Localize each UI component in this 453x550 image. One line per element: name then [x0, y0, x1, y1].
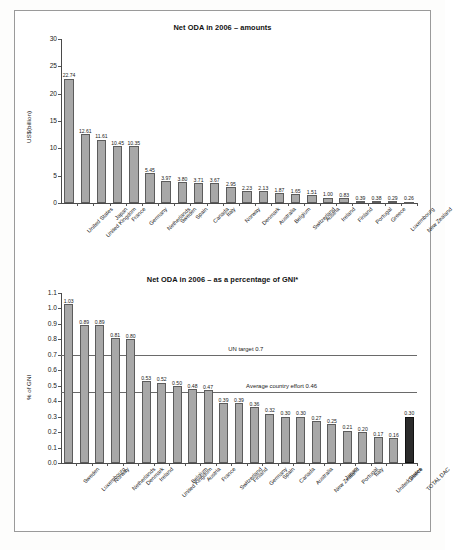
bar-value-label: 0.47 — [191, 384, 225, 390]
chart-title-gni: Net ODA in 2006 – as a percentage of GNI… — [15, 275, 430, 284]
y-axis-tick-label: 5 — [35, 172, 57, 179]
bar[interactable] — [291, 194, 300, 203]
y-axis-tick-mark — [58, 148, 61, 149]
x-axis-category-label: TOTAL DAC — [425, 466, 451, 492]
x-axis-tick-mark — [304, 203, 305, 206]
bar[interactable] — [142, 381, 151, 463]
x-axis-tick-mark — [247, 463, 248, 466]
y-axis-tick-label: 0.9 — [35, 320, 57, 327]
y-axis-tick-label: 0.8 — [35, 335, 57, 342]
x-axis-category-label: France — [220, 466, 237, 483]
bar[interactable] — [275, 193, 284, 203]
x-axis-tick-mark — [239, 203, 240, 206]
bar[interactable] — [157, 383, 166, 463]
x-axis-tick-mark — [76, 463, 77, 466]
bar[interactable] — [374, 437, 383, 463]
bar[interactable] — [405, 417, 414, 463]
bar[interactable] — [126, 339, 135, 463]
bar[interactable] — [95, 325, 104, 463]
x-axis-category-label: Ireland — [340, 206, 356, 222]
x-axis-tick-mark — [417, 203, 418, 206]
x-axis-tick-mark — [336, 203, 337, 206]
bar[interactable] — [323, 198, 332, 203]
bar[interactable] — [281, 417, 290, 463]
bar[interactable] — [388, 201, 397, 203]
bar[interactable] — [173, 386, 182, 463]
x-axis-tick-mark — [271, 203, 272, 206]
x-axis-tick-mark — [385, 203, 386, 206]
x-axis-tick-mark — [142, 203, 143, 206]
bar[interactable] — [265, 414, 274, 463]
bar-value-label: 0.26 — [391, 195, 427, 201]
y-axis-tick-label: 0.4 — [35, 397, 57, 404]
y-axis-tick-mark — [58, 339, 61, 340]
reference-line-label: Average country effort 0.46 — [246, 383, 317, 389]
x-axis-tick-mark — [92, 463, 93, 466]
bar[interactable] — [129, 146, 138, 203]
y-axis-tick-label: 0.7 — [35, 351, 57, 358]
bar[interactable] — [64, 304, 73, 463]
bar[interactable] — [312, 421, 321, 463]
chart-gni-percentage: 0.00.10.20.30.40.50.60.70.80.91.01.1% of… — [25, 285, 425, 473]
x-axis-tick-mark — [110, 203, 111, 206]
bar[interactable] — [389, 438, 398, 463]
bar-value-label: 0.25 — [315, 418, 349, 424]
bar[interactable] — [242, 191, 251, 203]
bar[interactable] — [194, 183, 203, 203]
y-axis-tick-mark — [58, 463, 61, 464]
x-axis-tick-mark — [207, 203, 208, 206]
bar[interactable] — [113, 146, 122, 203]
bar[interactable] — [356, 201, 365, 203]
x-axis-tick-mark — [223, 203, 224, 206]
bar[interactable] — [343, 431, 352, 463]
x-axis-tick-mark — [288, 203, 289, 206]
bar[interactable] — [178, 182, 187, 203]
bar[interactable] — [161, 181, 170, 203]
bar-value-label: 11.61 — [84, 133, 120, 139]
x-axis-tick-mark — [352, 203, 353, 206]
bar-value-label: 0.36 — [237, 401, 271, 407]
x-axis-category-label: Norway — [244, 206, 262, 224]
bar[interactable] — [404, 202, 413, 204]
x-axis-category-label: Sweden — [82, 466, 101, 485]
y-axis-tick-label: 0.5 — [35, 382, 57, 389]
x-axis-line — [61, 463, 417, 464]
y-axis-tick-mark — [58, 121, 61, 122]
y-axis-tick-mark — [58, 370, 61, 371]
bar[interactable] — [250, 407, 259, 463]
bar[interactable] — [97, 140, 106, 203]
bar[interactable] — [188, 389, 197, 463]
y-axis-line — [61, 39, 62, 203]
x-axis-category-label: Australia — [314, 466, 334, 486]
x-axis-tick-mark — [174, 203, 175, 206]
x-axis-tick-mark — [126, 203, 127, 206]
x-axis-tick-mark — [386, 463, 387, 466]
x-axis-tick-mark — [107, 463, 108, 466]
bar[interactable] — [80, 325, 89, 463]
bar[interactable] — [64, 79, 73, 203]
bar-value-label: 10.35 — [116, 140, 152, 146]
bar[interactable] — [372, 201, 381, 203]
y-axis-tick-label: 10 — [35, 144, 57, 151]
y-axis-tick-label: 0.3 — [35, 413, 57, 420]
bar[interactable] — [296, 417, 305, 463]
y-axis-tick-label: 15 — [35, 117, 57, 124]
bar[interactable] — [358, 432, 367, 463]
x-axis-tick-mark — [190, 203, 191, 206]
bar[interactable] — [81, 134, 90, 203]
bar[interactable] — [235, 403, 244, 463]
x-axis-tick-mark — [200, 463, 201, 466]
bar-value-label: 1.03 — [52, 298, 86, 304]
bar[interactable] — [111, 338, 120, 463]
bar[interactable] — [259, 191, 268, 203]
y-axis-line — [61, 293, 62, 463]
x-axis-category-label: Austria — [324, 206, 341, 223]
bar-value-label: 5.45 — [132, 167, 168, 173]
reference-line-label: UN target 0.7 — [228, 346, 263, 352]
bar[interactable] — [219, 403, 228, 463]
x-axis-tick-mark — [402, 463, 403, 466]
x-axis-tick-mark — [309, 463, 310, 466]
y-axis-tick-mark — [58, 176, 61, 177]
x-axis-tick-mark — [169, 463, 170, 466]
